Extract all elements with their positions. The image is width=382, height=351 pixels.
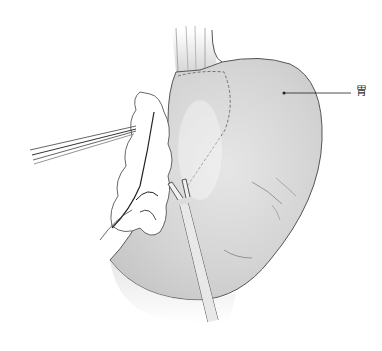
illustration	[0, 0, 382, 351]
stomach-label: 胃	[356, 85, 367, 99]
grasper-forceps-icon	[30, 126, 136, 164]
omentum	[100, 92, 172, 240]
